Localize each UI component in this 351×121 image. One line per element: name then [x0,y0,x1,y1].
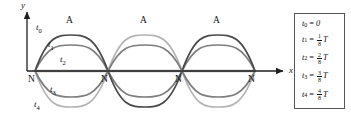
curve-label-t0: t0 [36,22,42,34]
legend-t1-sub: 1 [304,37,307,43]
antinode-label-3: A [213,15,220,25]
curve-label-t3: t3 [50,84,56,96]
legend-row-t3: t3 = 3 8 T [302,70,328,84]
curve-label-t0-sub: 0 [39,27,42,34]
legend-t3-fraction: 3 8 [317,70,322,84]
legend-row-t4: t4 = 4 8 T [302,88,328,102]
legend-t4-period: T [323,91,328,99]
legend-t1-eq: = [309,36,314,44]
legend-t0-sub: 0 [304,22,307,28]
node-label-1: N [28,74,35,84]
legend-t4-fraction: 4 8 [317,88,322,102]
legend-t3-eq: = [309,72,314,80]
legend-t0-value: 0 [316,20,320,28]
legend-t4-eq: = [309,91,314,99]
legend-t3-denominator: 8 [317,76,322,83]
node-label-4: N [248,74,255,84]
legend-t3-period: T [323,72,328,80]
curve-label-t1: t1 [48,39,54,51]
legend-t1-fraction: 1 8 [317,33,322,47]
y-axis-label: y [21,0,25,10]
curve-label-t4: t4 [34,99,40,111]
antinode-label-1: A [66,15,73,25]
legend-t4-denominator: 8 [317,94,322,101]
curve-label-t4-sub: 4 [37,104,40,111]
standing-wave-figure: y x N N N N A A A t0 t1 t2 t3 t4 t0 = 0 … [0,0,351,121]
legend-t1-period: T [323,36,328,44]
legend-row-t2: t2 = 2 8 T [302,52,328,66]
legend-row-t0: t0 = 0 [302,20,320,28]
legend-t2-fraction: 2 8 [317,52,322,66]
legend-t2-sub: 2 [304,55,307,61]
time-legend-box: t0 = 0 t1 = 1 8 T t2 = 2 8 T t3 = [294,13,345,109]
legend-t1-denominator: 8 [317,40,322,47]
curve-label-t1-sub: 1 [51,44,54,51]
node-label-3: N [175,74,182,84]
legend-t2-denominator: 8 [317,58,322,65]
legend-row-t1: t1 = 1 8 T [302,33,328,47]
curve-label-t2-sub: 2 [63,59,66,66]
antinode-label-2: A [140,15,147,25]
legend-t3-sub: 3 [304,74,307,80]
legend-t4-sub: 4 [304,92,307,98]
legend-t2-period: T [323,54,328,62]
x-axis-label: x [289,65,293,75]
legend-t2-eq: = [309,54,314,62]
legend-t0-eq: = [309,20,314,28]
curve-label-t3-sub: 3 [53,89,56,96]
curve-label-t2: t2 [60,54,66,66]
node-label-2: N [101,74,108,84]
